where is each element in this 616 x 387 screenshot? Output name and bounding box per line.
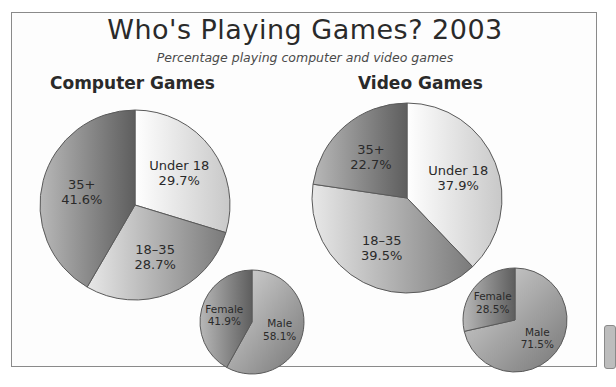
slice-value: 41.6% <box>61 192 102 207</box>
slice-value: 22.7% <box>350 157 391 172</box>
pie-computer-gender: Male58.1%Female41.9% <box>200 270 304 374</box>
pie-computer-age: Under 1829.7%18–3528.7%35+41.6% <box>40 110 230 300</box>
slice-value: 71.5% <box>521 338 554 350</box>
slice-label: Male <box>525 326 550 338</box>
slice-value: 41.9% <box>208 315 241 327</box>
slice-value: 29.7% <box>159 173 200 188</box>
pie-video-gender: Male71.5%Female28.5% <box>463 268 567 372</box>
slice-label: Under 18 <box>149 158 209 173</box>
slice-label: 35+ <box>68 177 95 192</box>
slice-label: 18–35 <box>135 242 175 257</box>
slice-value: 37.9% <box>437 178 478 193</box>
side-tab <box>604 325 616 369</box>
slice-label: 35+ <box>357 142 384 157</box>
slice-label: Male <box>267 317 292 329</box>
slice-value: 39.5% <box>361 248 402 263</box>
slice-label: Female <box>205 303 243 315</box>
slice-value: 28.5% <box>476 303 509 315</box>
slice-label: Female <box>474 290 512 302</box>
slice-label: 18–35 <box>362 233 402 248</box>
slice-label: Under 18 <box>428 163 488 178</box>
slice-value: 28.7% <box>134 257 175 272</box>
pie-video-age: Under 1837.9%18–3539.5%35+22.7% <box>312 103 502 293</box>
slice-value: 58.1% <box>263 330 296 342</box>
